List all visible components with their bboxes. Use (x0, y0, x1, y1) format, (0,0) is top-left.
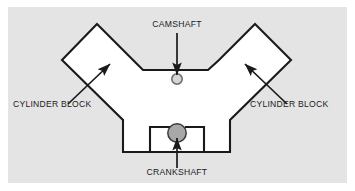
diagram-root: CAMSHAFT CRANKSHAFT CYLINDER BLOCK CYLIN… (0, 0, 355, 191)
label-camshaft: CAMSHAFT (152, 19, 202, 29)
engine-diagram: CAMSHAFT CRANKSHAFT CYLINDER BLOCK CYLIN… (0, 0, 355, 191)
label-crankshaft: CRANKSHAFT (147, 167, 208, 177)
label-cylinder-block-left: CYLINDER BLOCK (13, 99, 91, 109)
camshaft-circle (172, 74, 182, 84)
label-cylinder-block-right: CYLINDER BLOCK (250, 99, 328, 109)
